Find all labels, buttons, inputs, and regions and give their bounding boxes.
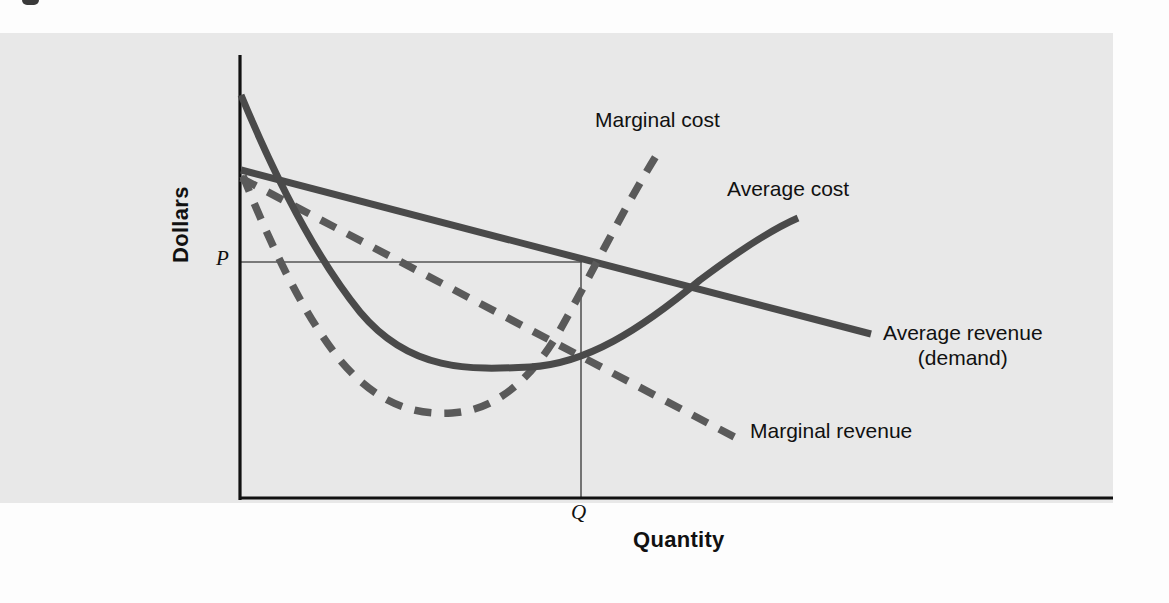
x-axis-label: Quantity xyxy=(633,527,725,553)
quantity-tick-label: Q xyxy=(571,500,586,525)
figure-container: Marginal cost Average cost Average reven… xyxy=(0,0,1169,603)
label-average-revenue-line2: (demand) xyxy=(883,345,1043,370)
y-axis-label: Dollars xyxy=(168,186,194,263)
price-tick-label: P xyxy=(216,246,229,271)
label-average-revenue-line1: Average revenue xyxy=(883,320,1043,345)
label-marginal-revenue: Marginal revenue xyxy=(750,419,912,443)
label-average-revenue: Average revenue (demand) xyxy=(883,320,1043,370)
label-marginal-cost: Marginal cost xyxy=(595,108,720,132)
label-average-cost: Average cost xyxy=(727,177,849,201)
